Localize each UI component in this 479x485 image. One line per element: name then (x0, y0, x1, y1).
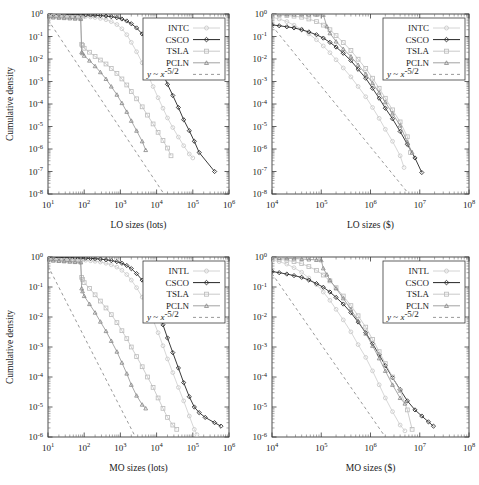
svg-text:105: 105 (187, 198, 199, 210)
legend: INTLCSCOTSLAPCLNy ~ x-5/2 (143, 261, 225, 323)
svg-text:101: 101 (42, 198, 54, 210)
svg-text:10-6: 10-6 (29, 431, 44, 443)
svg-text:10-4: 10-4 (29, 98, 44, 110)
svg-text:104: 104 (150, 441, 163, 453)
x-axis-label: MO sizes ($) (346, 463, 396, 474)
svg-text:10-7: 10-7 (29, 165, 44, 177)
legend: INTCCSCOTSLAPCLNy ~ x-5/2 (383, 18, 465, 80)
y-axis-label: Cumulative density (5, 67, 15, 141)
svg-text:102: 102 (78, 441, 90, 453)
svg-text:10-4: 10-4 (253, 371, 268, 383)
svg-text:100: 100 (255, 251, 267, 263)
svg-text:10-3: 10-3 (29, 75, 43, 87)
svg-text:10-3: 10-3 (253, 75, 267, 87)
svg-text:10-2: 10-2 (253, 311, 267, 323)
svg-text:104: 104 (266, 441, 279, 453)
legend: INTCCSCOTSLAPCLNy ~ x-5/2 (143, 18, 225, 80)
svg-text:INTL: INTL (409, 266, 430, 276)
x-axis-label: MO sizes (lots) (109, 463, 168, 474)
svg-text:TSLA: TSLA (167, 46, 190, 56)
svg-text:10-3: 10-3 (29, 341, 43, 353)
svg-text:TSLA: TSLA (407, 289, 430, 299)
svg-text:104: 104 (266, 198, 279, 210)
svg-text:CSCO: CSCO (405, 35, 429, 45)
svg-text:100: 100 (31, 251, 43, 263)
series-y-x-5-2 (48, 266, 135, 437)
svg-text:10-2: 10-2 (29, 53, 43, 65)
svg-text:10-4: 10-4 (29, 371, 44, 383)
svg-text:101: 101 (42, 441, 54, 453)
svg-text:10-2: 10-2 (253, 53, 267, 65)
svg-text:10-1: 10-1 (29, 30, 43, 42)
chart-panel-bottom-right: 10410510610710810010-110-210-310-410-510… (240, 243, 479, 485)
svg-text:CSCO: CSCO (165, 35, 189, 45)
svg-text:INTC: INTC (408, 23, 429, 33)
svg-text:10-8: 10-8 (253, 188, 267, 200)
svg-text:107: 107 (414, 441, 427, 453)
y-axis-label: Cumulative density (5, 310, 15, 384)
svg-text:106: 106 (364, 198, 377, 210)
svg-text:10-7: 10-7 (253, 165, 268, 177)
svg-text:10-5: 10-5 (253, 120, 267, 132)
svg-text:103: 103 (114, 441, 126, 453)
svg-text:10-5: 10-5 (29, 120, 43, 132)
svg-text:TSLA: TSLA (407, 46, 430, 56)
chart-panel-bottom-left: 10110210310410510610010-110-210-310-410-… (0, 243, 239, 485)
svg-text:103: 103 (114, 198, 126, 210)
svg-text:CSCO: CSCO (165, 278, 189, 288)
svg-text:106: 106 (364, 441, 377, 453)
chart-panel-top-left: 10110210310410510610010-110-210-310-410-… (0, 0, 239, 242)
svg-text:105: 105 (187, 441, 199, 453)
svg-text:10-5: 10-5 (253, 401, 267, 413)
svg-text:106: 106 (223, 441, 236, 453)
svg-text:104: 104 (150, 198, 163, 210)
svg-text:10-4: 10-4 (253, 98, 268, 110)
svg-text:10-6: 10-6 (253, 431, 268, 443)
svg-text:10-1: 10-1 (29, 281, 43, 293)
svg-text:102: 102 (78, 198, 90, 210)
svg-text:INTC: INTC (168, 23, 189, 33)
figure-container: 10110210310410510610010-110-210-310-410-… (0, 0, 479, 485)
x-axis-label: LO sizes ($) (347, 220, 394, 231)
svg-text:10-1: 10-1 (253, 281, 267, 293)
svg-text:105: 105 (315, 198, 327, 210)
svg-text:105: 105 (315, 441, 327, 453)
svg-text:10-5: 10-5 (29, 401, 43, 413)
legend: INTLCSCOTSLAPCLNy ~ x-5/2 (383, 261, 465, 323)
series-y-x-5-2 (272, 274, 385, 437)
series-pcln (46, 15, 148, 151)
svg-text:100: 100 (31, 8, 43, 20)
svg-text:10-2: 10-2 (29, 311, 43, 323)
svg-text:INTL: INTL (169, 266, 190, 276)
chart-panel-top-right: 10410510610710810010-110-210-310-410-510… (240, 0, 479, 242)
x-axis-label: LO sizes (lots) (111, 220, 167, 231)
svg-text:108: 108 (463, 441, 475, 453)
svg-text:108: 108 (463, 198, 475, 210)
svg-text:TSLA: TSLA (167, 289, 190, 299)
svg-text:10-8: 10-8 (29, 188, 43, 200)
svg-text:106: 106 (223, 198, 236, 210)
svg-text:107: 107 (414, 198, 427, 210)
svg-text:10-3: 10-3 (253, 341, 267, 353)
svg-text:10-6: 10-6 (253, 143, 268, 155)
svg-text:10-1: 10-1 (253, 30, 267, 42)
svg-text:100: 100 (255, 8, 267, 20)
svg-text:10-6: 10-6 (29, 143, 44, 155)
svg-text:CSCO: CSCO (405, 278, 429, 288)
